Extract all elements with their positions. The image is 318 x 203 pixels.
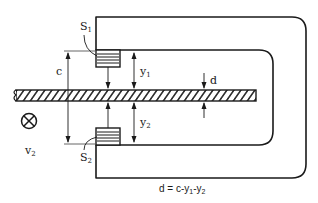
label-s1: S1 xyxy=(80,21,92,34)
label-v2: v2 xyxy=(25,145,36,158)
s1-leader-line xyxy=(84,35,97,56)
label-d: d xyxy=(210,75,217,86)
coil-s2 xyxy=(96,128,120,145)
label-y2: y2 xyxy=(140,117,151,130)
hatched-plate xyxy=(14,90,256,101)
s2-leader-line xyxy=(84,137,97,150)
label-c: c xyxy=(56,66,62,77)
dimension-y1-arrow xyxy=(132,52,137,89)
diagram-canvas xyxy=(0,0,318,203)
s2-field-arrow xyxy=(106,102,111,128)
label-s2: S2 xyxy=(80,152,92,165)
formula-d: d = c-y1-y2 xyxy=(159,184,205,195)
cross-in-circle-icon xyxy=(22,114,37,129)
coil-s1 xyxy=(96,50,120,67)
s1-field-arrow xyxy=(106,67,111,89)
label-y1: y1 xyxy=(140,66,151,79)
dimension-y2-arrow xyxy=(132,102,137,143)
